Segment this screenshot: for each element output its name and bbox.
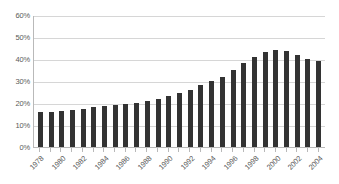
bar	[49, 112, 54, 147]
y-axis: 60%50%40%30%20%10%0%	[0, 0, 30, 184]
bar	[123, 104, 128, 147]
bar	[156, 99, 161, 147]
x-label-slot: 1982	[80, 152, 85, 184]
bar	[241, 63, 246, 147]
bar	[134, 103, 139, 147]
bar	[231, 70, 236, 147]
y-tick-label: 20%	[2, 100, 30, 108]
y-tick-label: 40%	[2, 56, 30, 64]
bar	[166, 96, 171, 147]
bar	[209, 81, 214, 147]
y-tick-label: 30%	[2, 78, 30, 86]
y-tick-label: 50%	[2, 34, 30, 42]
bar	[91, 107, 96, 147]
bar	[177, 93, 182, 147]
bar	[145, 101, 150, 147]
y-tick-label: 10%	[2, 122, 30, 130]
bar	[252, 57, 257, 147]
plot-area	[33, 16, 325, 148]
x-label-slot: 1996	[230, 152, 235, 184]
x-axis: 1978198019821984198619881990199219941996…	[33, 152, 325, 184]
bar	[284, 51, 289, 147]
bar	[220, 77, 225, 147]
bar	[38, 112, 43, 147]
bar	[295, 55, 300, 147]
x-tick-label: 1978	[28, 154, 46, 172]
x-label-slot: 1992	[187, 152, 192, 184]
bar	[305, 59, 310, 147]
bar	[188, 90, 193, 147]
x-label-slot: 1978	[37, 152, 42, 184]
bar	[263, 52, 268, 147]
x-label-slot: 1990	[166, 152, 171, 184]
x-label-slot: 2002	[294, 152, 299, 184]
bar	[273, 50, 278, 147]
x-label-slot: 1994	[209, 152, 214, 184]
x-label-slot: 2004	[316, 152, 321, 184]
x-label-slot: 2000	[273, 152, 278, 184]
x-label-slot: 1988	[144, 152, 149, 184]
bar-series	[34, 16, 325, 147]
y-tick-label: 0%	[2, 144, 30, 152]
x-label-slot: 1986	[123, 152, 128, 184]
bar	[70, 110, 75, 147]
x-label-slot: 1980	[58, 152, 63, 184]
y-tick-label: 60%	[2, 12, 30, 20]
bar	[198, 85, 203, 147]
bar	[102, 106, 107, 147]
bar	[316, 61, 321, 147]
bar	[81, 109, 86, 148]
x-label-slot: 1984	[101, 152, 106, 184]
x-label-slot: 1998	[252, 152, 257, 184]
bar	[113, 105, 118, 147]
bar-chart: 60%50%40%30%20%10%0% 1978198019821984198…	[0, 0, 339, 184]
bar	[59, 111, 64, 147]
